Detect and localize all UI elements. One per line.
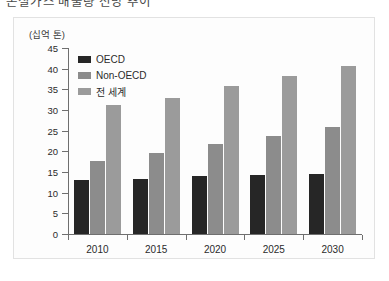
legend-label: 전 세계 — [96, 84, 126, 99]
chart-legend: OECDNon-OECD전 세계 — [78, 52, 147, 100]
bar — [224, 86, 239, 234]
bar — [90, 161, 105, 234]
legend-item: Non-OECD — [78, 68, 147, 82]
bar — [325, 127, 340, 234]
legend-swatch-icon — [78, 88, 91, 95]
legend-label: OECD — [96, 54, 125, 65]
chart-plot-area: (십억 톤) 454035302520151050 20102015202020… — [14, 18, 376, 260]
chart-card: (십억 톤) 454035302520151050 20102015202020… — [13, 17, 375, 259]
bar — [133, 179, 148, 234]
legend-label: Non-OECD — [96, 70, 147, 81]
bar — [282, 76, 297, 234]
bar — [341, 66, 356, 234]
legend-swatch-icon — [78, 72, 91, 79]
bar — [192, 176, 207, 234]
legend-swatch-icon — [78, 56, 91, 63]
bar — [149, 153, 164, 234]
bar — [309, 174, 324, 234]
bar — [74, 180, 89, 234]
page-caption: 온실가스 배출량 전망 추이 — [6, 0, 306, 7]
screenshot-root: 온실가스 배출량 전망 추이 (십억 톤) 454035302520151050… — [0, 0, 389, 281]
bar — [266, 136, 281, 234]
bar — [208, 144, 223, 234]
bar — [106, 105, 121, 234]
bar-series-layer — [14, 18, 376, 260]
legend-item: OECD — [78, 52, 147, 66]
legend-item: 전 세계 — [78, 84, 147, 98]
bar — [165, 98, 180, 234]
bar — [250, 175, 265, 234]
